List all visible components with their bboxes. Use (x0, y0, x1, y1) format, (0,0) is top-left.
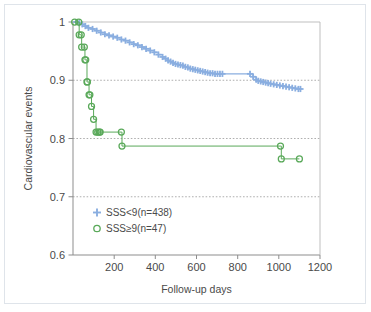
y-tick-label-0_7: 0.7 (50, 191, 65, 203)
y-tick-label-0_6: 0.6 (50, 249, 65, 261)
legend-label-sss-lt-9: SSS<9(n=438) (106, 207, 172, 218)
y-tick-label-1: 1 (59, 16, 65, 28)
x-tick-label-400: 400 (146, 261, 164, 273)
y-tick-marks (69, 22, 74, 255)
x-tick-label-200: 200 (105, 261, 123, 273)
y-tick-label-0_9: 0.9 (50, 74, 65, 86)
x-axis-label: Follow-up days (161, 283, 232, 295)
x-tick-label-600: 600 (187, 261, 205, 273)
x-tick-labels: 200 400 600 800 1000 1200 (105, 261, 332, 273)
x-tick-label-1200: 1200 (308, 261, 332, 273)
y-tick-labels: 1 0.9 0.8 0.7 0.6 (50, 16, 65, 261)
x-tick-label-800: 800 (229, 261, 247, 273)
legend-label-sss-gte-9: SSS≥9(n=47) (106, 223, 166, 234)
y-tick-label-0_8: 0.8 (50, 133, 65, 145)
x-tick-label-1000: 1000 (267, 261, 291, 273)
figure-root: 1 0.9 0.8 0.7 0.6 200 400 600 800 1000 1… (0, 0, 371, 312)
y-axis-label: Cardiovascular events (22, 87, 34, 191)
x-tick-marks (114, 255, 320, 259)
survival-chart: 1 0.9 0.8 0.7 0.6 200 400 600 800 1000 1… (0, 0, 371, 312)
